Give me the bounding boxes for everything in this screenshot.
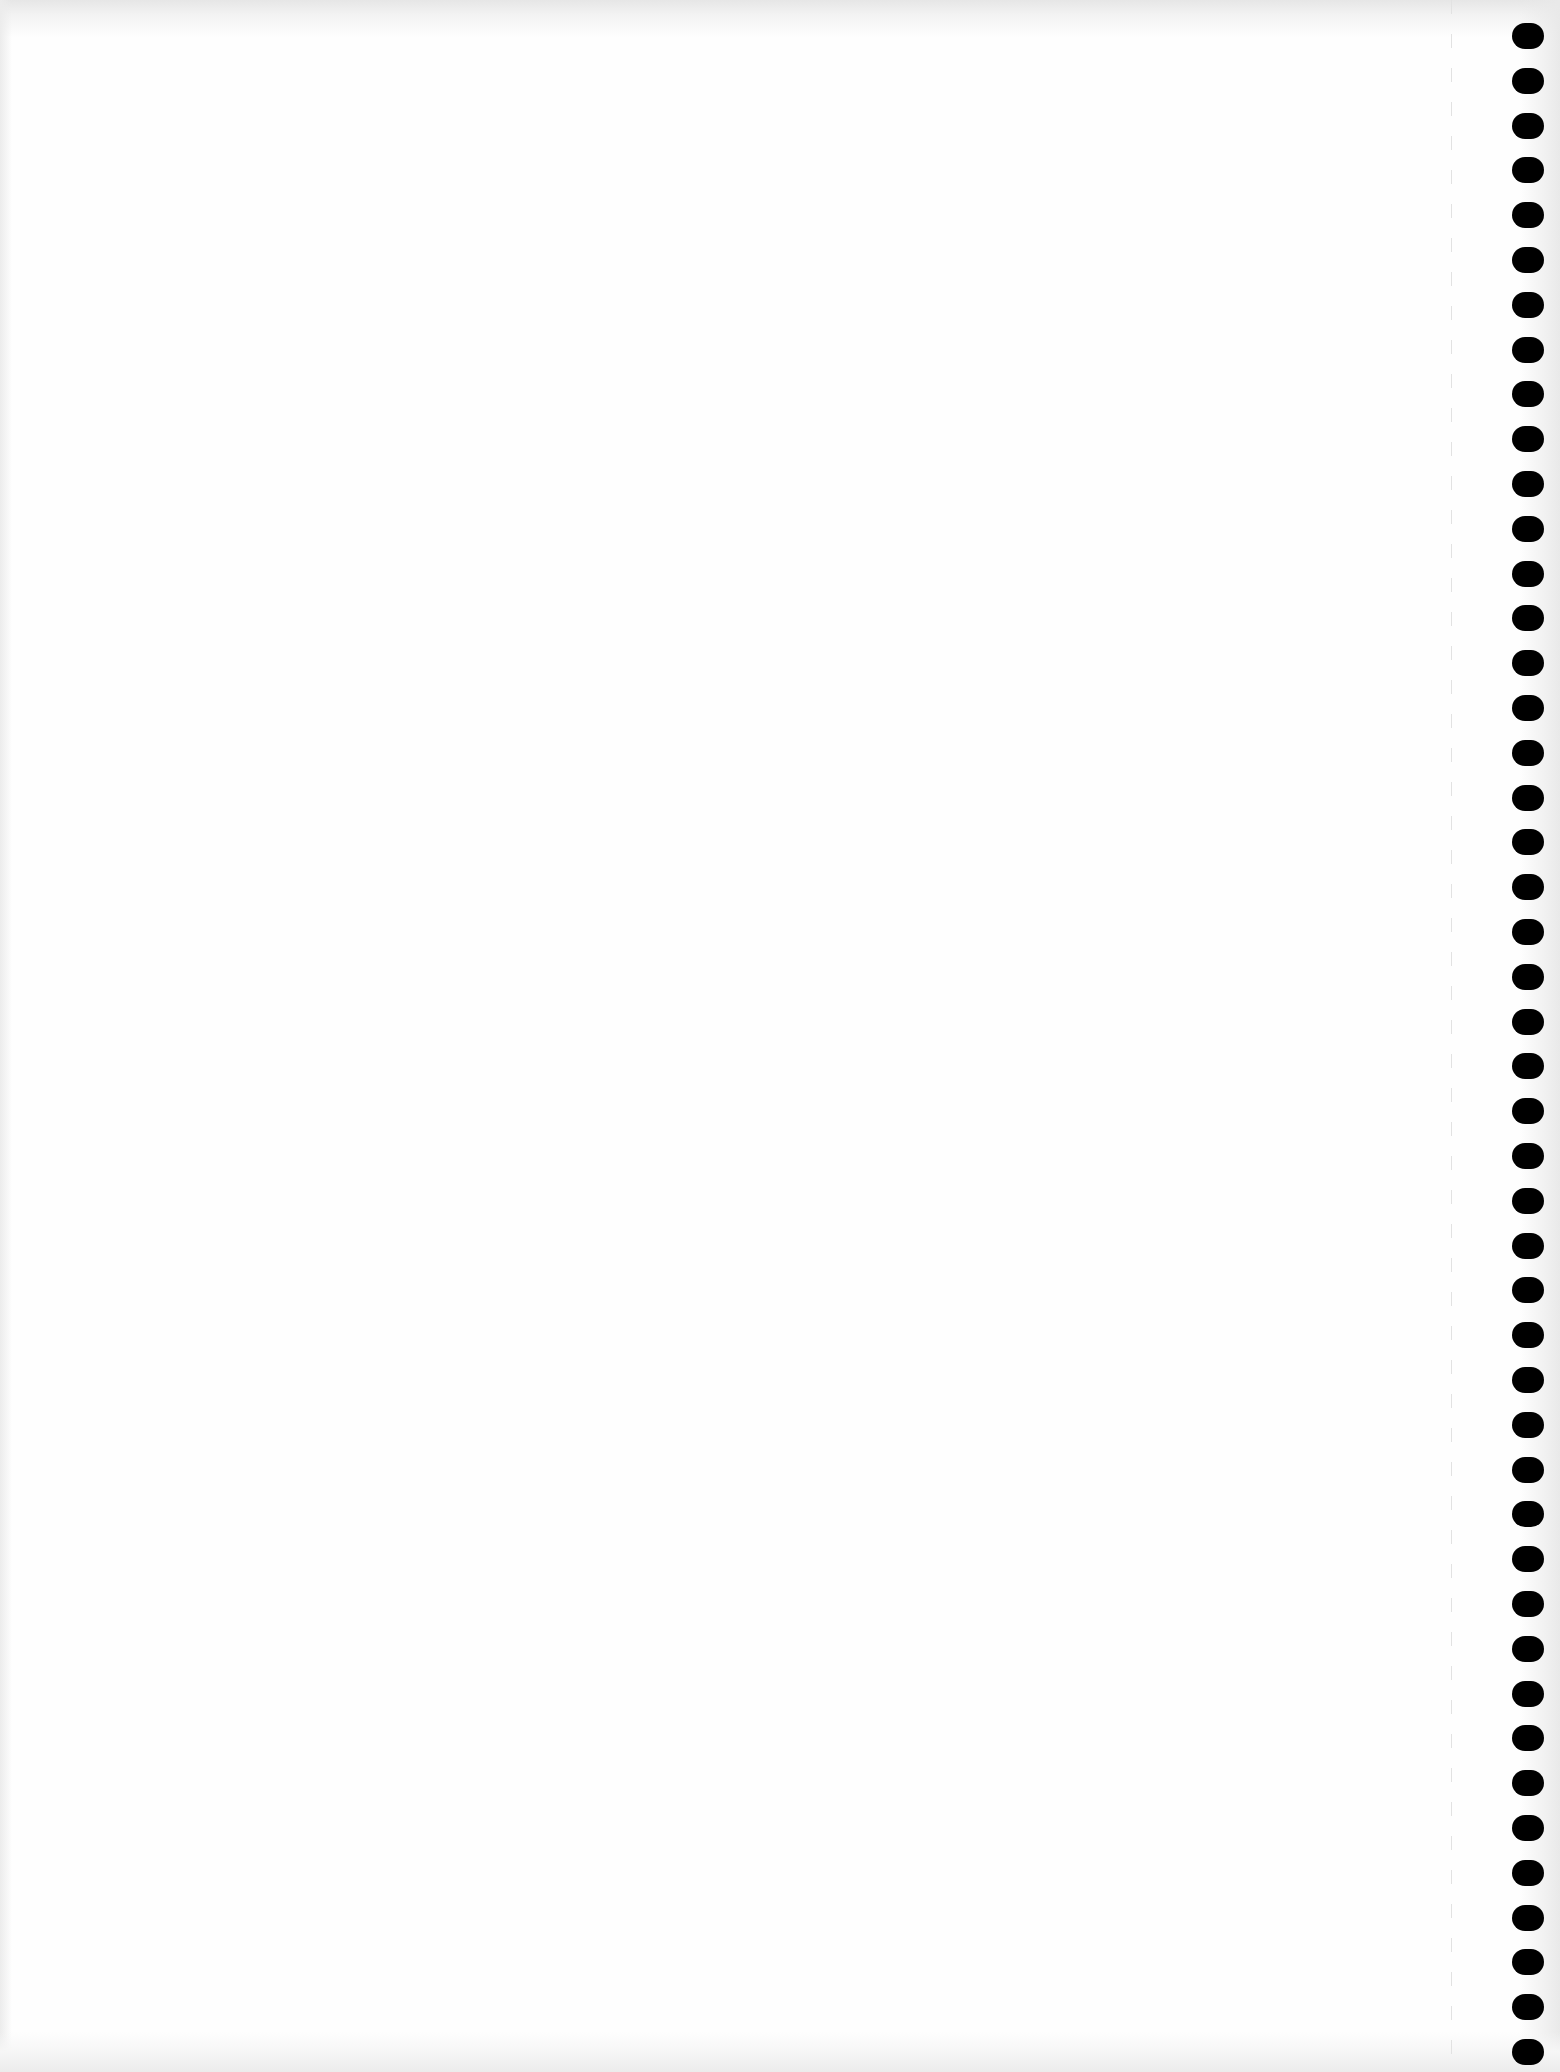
spiral-binding-hole-icon xyxy=(1512,740,1544,766)
spiral-binding-hole-icon xyxy=(1512,650,1544,676)
spiral-binding-hole-icon xyxy=(1512,1098,1544,1124)
spiral-binding-hole-icon xyxy=(1512,1188,1544,1214)
spiral-binding-hole-icon xyxy=(1512,1681,1544,1707)
spiral-binding-hole-icon xyxy=(1512,1994,1544,2020)
spiral-binding-hole-icon xyxy=(1512,1009,1544,1035)
spiral-binding-hole-icon xyxy=(1512,426,1544,452)
spiral-binding-hole-icon xyxy=(1512,292,1544,318)
spiral-binding-hole-icon xyxy=(1512,202,1544,228)
spiral-binding-hole-icon xyxy=(1512,1143,1544,1169)
spiral-binding-hole-icon xyxy=(1512,1546,1544,1572)
spiral-binding-hole-icon xyxy=(1512,874,1544,900)
spiral-binding-hole-icon xyxy=(1512,23,1544,49)
spiral-binding-hole-icon xyxy=(1512,1457,1544,1483)
spiral-binding-hole-icon xyxy=(1512,1636,1544,1662)
spiral-binding-hole-icon xyxy=(1512,785,1544,811)
perforation-line xyxy=(1451,0,1452,2072)
spiral-binding-hole-icon xyxy=(1512,381,1544,407)
spiral-binding-hole-icon xyxy=(1512,829,1544,855)
spiral-binding-hole-icon xyxy=(1512,68,1544,94)
scan-shadow-left xyxy=(0,0,12,2072)
spiral-binding-hole-icon xyxy=(1512,113,1544,139)
spiral-binding-hole-icon xyxy=(1512,1815,1544,1841)
spiral-binding-hole-icon xyxy=(1512,337,1544,363)
spiral-binding-hole-icon xyxy=(1512,157,1544,183)
spiral-binding-hole-icon xyxy=(1512,1860,1544,1886)
spiral-binding-hole-icon xyxy=(1512,1949,1544,1975)
spiral-binding-hole-icon xyxy=(1512,471,1544,497)
spiral-binding-hole-icon xyxy=(1512,1322,1544,1348)
spiral-binding-hole-icon xyxy=(1512,2039,1544,2065)
spiral-binding-hole-icon xyxy=(1512,516,1544,542)
spiral-binding-hole-icon xyxy=(1512,1053,1544,1079)
spiral-binding-hole-icon xyxy=(1512,1277,1544,1303)
spiral-binding-hole-icon xyxy=(1512,1367,1544,1393)
spiral-binding-hole-icon xyxy=(1512,1725,1544,1751)
spiral-binding-strip xyxy=(1512,0,1548,2072)
spiral-binding-hole-icon xyxy=(1512,919,1544,945)
spiral-binding-hole-icon xyxy=(1512,1233,1544,1259)
spiral-binding-hole-icon xyxy=(1512,1412,1544,1438)
spiral-binding-hole-icon xyxy=(1512,964,1544,990)
spiral-binding-hole-icon xyxy=(1512,561,1544,587)
spiral-binding-hole-icon xyxy=(1512,1501,1544,1527)
scan-shadow-bottom xyxy=(0,2032,1560,2072)
spiral-binding-hole-icon xyxy=(1512,605,1544,631)
spiral-binding-hole-icon xyxy=(1512,1591,1544,1617)
spiral-binding-hole-icon xyxy=(1512,1770,1544,1796)
scan-shadow-top xyxy=(0,0,1560,38)
spiral-binding-hole-icon xyxy=(1512,1905,1544,1931)
notebook-page xyxy=(0,0,1560,2072)
spiral-binding-hole-icon xyxy=(1512,247,1544,273)
spiral-binding-hole-icon xyxy=(1512,695,1544,721)
